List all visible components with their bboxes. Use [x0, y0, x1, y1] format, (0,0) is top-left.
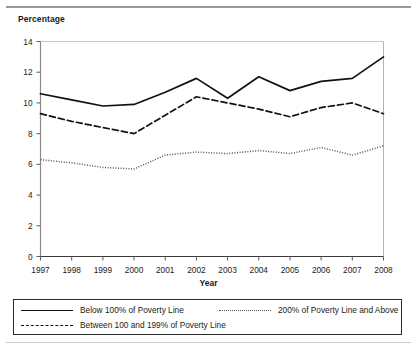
- legend-item-below-100[interactable]: Below 100% of Poverty Line: [21, 305, 184, 315]
- y-axis-tick-label: 0: [28, 252, 33, 262]
- legend-swatch-solid-icon: [21, 305, 73, 315]
- y-axis-tick-label: 10: [23, 98, 33, 108]
- x-axis-title: Year: [0, 278, 417, 288]
- legend-swatch-dashed-icon: [21, 320, 73, 330]
- legend-item-between-100-199[interactable]: Between 100 and 199% of Poverty Line: [21, 320, 226, 330]
- x-axis-tick-label: 2001: [156, 265, 175, 275]
- series-line-dashed: [41, 97, 384, 134]
- x-axis-tick-label: 1999: [94, 265, 113, 275]
- series-line-dotted: [41, 146, 384, 169]
- line-chart-plot: 0246810121419971998199920002001200220032…: [0, 0, 417, 346]
- x-axis-tick-label: 2005: [281, 265, 300, 275]
- bottom-divider-rule: [6, 342, 411, 343]
- legend-label-between-100-199: Between 100 and 199% of Poverty Line: [80, 320, 226, 330]
- x-axis-tick-label: 2004: [250, 265, 269, 275]
- legend-label-200-and-above: 200% of Poverty Line and Above: [278, 305, 398, 315]
- x-axis-tick-label: 1997: [31, 265, 50, 275]
- x-axis-tick-label: 2002: [187, 265, 206, 275]
- x-axis-tick-label: 2008: [374, 265, 393, 275]
- x-axis-tick-label: 2007: [343, 265, 362, 275]
- y-axis-tick-label: 4: [28, 190, 33, 200]
- y-axis-tick-label: 12: [23, 67, 33, 77]
- y-axis-tick-label: 2: [28, 221, 33, 231]
- y-axis-tick-label: 6: [28, 159, 33, 169]
- legend-item-200-and-above[interactable]: 200% of Poverty Line and Above: [219, 305, 398, 315]
- chart-figure: Percentage 02468101214199719981999200020…: [0, 0, 417, 346]
- series-line-solid: [41, 57, 384, 106]
- x-axis-tick-label: 1998: [62, 265, 81, 275]
- y-axis-tick-label: 14: [23, 37, 33, 47]
- x-axis-tick-label: 2003: [218, 265, 237, 275]
- x-axis-tick-label: 2000: [125, 265, 144, 275]
- y-axis-tick-label: 8: [28, 129, 33, 139]
- legend-swatch-dotted-icon: [219, 305, 271, 315]
- x-axis-tick-label: 2006: [312, 265, 331, 275]
- legend-label-below-100: Below 100% of Poverty Line: [80, 305, 184, 315]
- chart-legend: Below 100% of Poverty Line Between 100 a…: [13, 299, 402, 335]
